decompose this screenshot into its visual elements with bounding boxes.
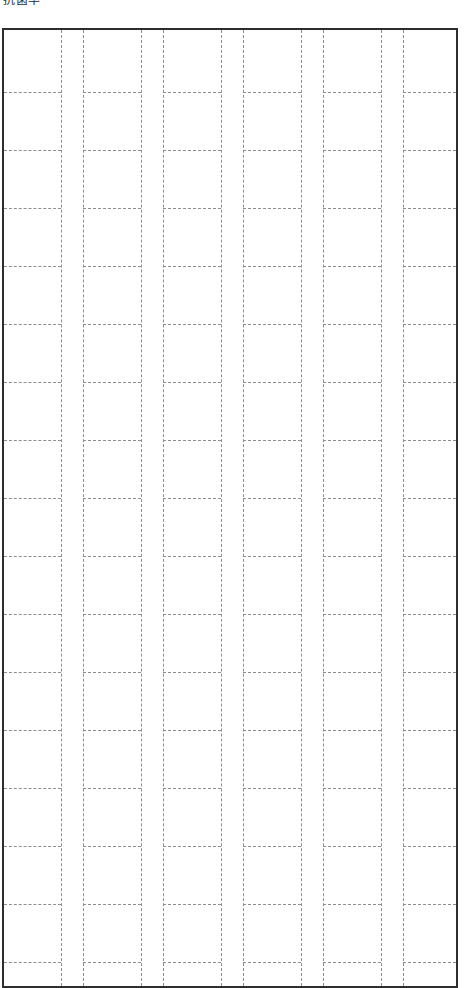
grid-row-rule-r11-c5	[403, 730, 456, 731]
grid-cell	[243, 34, 301, 92]
grid-cell	[323, 208, 381, 266]
grid-cell	[323, 556, 381, 614]
grid-cell	[403, 324, 458, 382]
grid-cell	[83, 614, 141, 672]
grid-cell	[4, 208, 63, 266]
grid-cell	[243, 150, 301, 208]
grid-row-rule-r14-c3	[243, 904, 301, 905]
grid-cell	[83, 324, 141, 382]
grid-row-rule-r1-c2	[163, 150, 221, 151]
grid-column-rule-9	[403, 30, 404, 986]
grid-cell	[4, 672, 63, 730]
grid-cell	[83, 846, 141, 904]
grid-row-rule-r2-c4	[323, 208, 381, 209]
grid-cell	[403, 904, 458, 962]
grid-row-rule-r14-c1	[83, 904, 141, 905]
grid-cell	[323, 846, 381, 904]
grid-cell	[403, 266, 458, 324]
grid-row-rule-r14-c2	[163, 904, 221, 905]
grid-cell	[163, 34, 221, 92]
grid-cell	[403, 34, 458, 92]
grid-cell	[323, 440, 381, 498]
grid-row-rule-r0-c5	[403, 92, 456, 93]
grid-row-rule-r0-c2	[163, 92, 221, 93]
grid-row-rule-r8-c2	[163, 556, 221, 557]
grid-row-rule-r15-c3	[243, 962, 301, 963]
grid-row-rule-r10-c1	[83, 672, 141, 673]
grid-row-rule-r7-c2	[163, 498, 221, 499]
grid-cell	[163, 904, 221, 962]
grid-cell	[323, 92, 381, 150]
grid-cell	[403, 556, 458, 614]
grid-cell	[4, 788, 63, 846]
grid-cell	[163, 440, 221, 498]
grid-cell	[243, 440, 301, 498]
grid-cell	[403, 788, 458, 846]
grid-row-rule-r0-c0	[4, 92, 61, 93]
grid-row-rule-r3-c1	[83, 266, 141, 267]
grid-cell	[163, 846, 221, 904]
grid-cell	[323, 498, 381, 556]
grid-row-rule-r6-c5	[403, 440, 456, 441]
grid-cell	[323, 614, 381, 672]
grid-row-rule-r14-c5	[403, 904, 456, 905]
grid-row-rule-r15-c5	[403, 962, 456, 963]
grid-cell	[163, 324, 221, 382]
grid-row-rule-r9-c2	[163, 614, 221, 615]
grid-cell	[243, 672, 301, 730]
grid-row-rule-r7-c5	[403, 498, 456, 499]
grid-row-rule-r1-c0	[4, 150, 61, 151]
grid-cell	[323, 672, 381, 730]
grid-cell	[4, 266, 63, 324]
grid-row-rule-r8-c5	[403, 556, 456, 557]
grid-row-rule-r3-c2	[163, 266, 221, 267]
grid-cell	[243, 846, 301, 904]
grid-row-rule-r5-c3	[243, 382, 301, 383]
grid-row-rule-r8-c3	[243, 556, 301, 557]
grid-cell	[163, 92, 221, 150]
grid-row-rule-r14-c4	[323, 904, 381, 905]
grid-cell	[4, 498, 63, 556]
grid-row-rule-r13-c4	[323, 846, 381, 847]
grid-row-rule-r0-c1	[83, 92, 141, 93]
grid-cell	[403, 92, 458, 150]
grid-row-rule-r15-c0	[4, 962, 61, 963]
grid-cell	[4, 150, 63, 208]
grid-row-rule-r9-c0	[4, 614, 61, 615]
grid-row-rule-r9-c3	[243, 614, 301, 615]
grid-row-rule-r8-c0	[4, 556, 61, 557]
grid-row-rule-r0-c3	[243, 92, 301, 93]
grid-column-rule-4	[221, 30, 222, 986]
grid-cell	[83, 730, 141, 788]
grid-row-rule-r4-c4	[323, 324, 381, 325]
grid-row-rule-r2-c1	[83, 208, 141, 209]
grid-row-rule-r5-c4	[323, 382, 381, 383]
grid-cell	[323, 150, 381, 208]
grid-row-rule-r4-c1	[83, 324, 141, 325]
grid-cell	[163, 556, 221, 614]
grid-row-rule-r2-c3	[243, 208, 301, 209]
grid-cell	[403, 382, 458, 440]
grid-cell	[163, 150, 221, 208]
page-title: 抗菌率	[3, 0, 203, 13]
grid-cell	[163, 266, 221, 324]
grid-cell	[323, 266, 381, 324]
grid-row-rule-r10-c4	[323, 672, 381, 673]
grid-row-rule-r1-c4	[323, 150, 381, 151]
grid-cell	[4, 614, 63, 672]
grid-row-rule-r7-c3	[243, 498, 301, 499]
grid-cell	[163, 672, 221, 730]
grid-cell	[4, 846, 63, 904]
grid-row-rule-r12-c0	[4, 788, 61, 789]
grid-row-rule-r2-c0	[4, 208, 61, 209]
grid-row-rule-r7-c4	[323, 498, 381, 499]
grid-cell	[4, 324, 63, 382]
grid-cell	[4, 556, 63, 614]
grid-row-rule-r6-c3	[243, 440, 301, 441]
grid-cell	[83, 208, 141, 266]
grid-cell	[4, 440, 63, 498]
grid-row-rule-r15-c2	[163, 962, 221, 963]
grid-column-rule-7	[323, 30, 324, 986]
grid-column-rule-1	[83, 30, 84, 986]
grid-cell	[403, 498, 458, 556]
